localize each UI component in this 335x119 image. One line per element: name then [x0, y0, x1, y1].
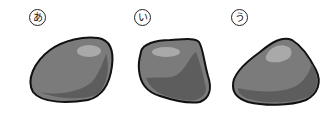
stone-a — [30, 38, 112, 102]
stone-i — [139, 39, 210, 102]
stone-u — [233, 39, 319, 105]
stones-illustration — [0, 0, 335, 119]
